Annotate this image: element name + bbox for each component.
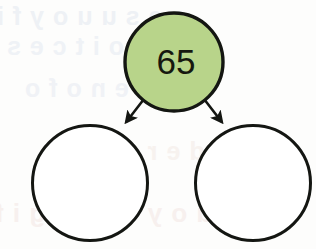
- number-bond-child-right[interactable]: [196, 126, 311, 241]
- arrow-to-left-child: [127, 99, 144, 121]
- number-bond-parent-value: 65: [157, 42, 196, 81]
- number-bond-child-left[interactable]: [33, 126, 148, 241]
- arrow-to-right-child: [204, 99, 221, 121]
- number-bond-diagram: 65: [0, 0, 316, 249]
- worksheet-canvas: s e s u u o y f i n i s n o i t c e s r …: [0, 0, 316, 249]
